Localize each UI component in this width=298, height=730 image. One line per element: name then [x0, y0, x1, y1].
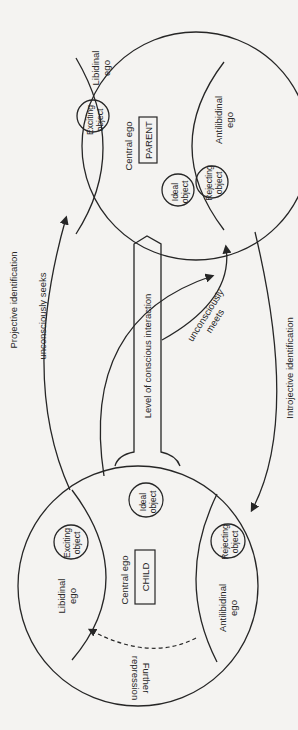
- child-libidinal-divider: [72, 490, 106, 660]
- parent-label: PARENT: [143, 121, 154, 159]
- parent-central-ego-label: Central ego: [123, 121, 134, 170]
- child-antilibidinal-ego-label: Antilibidinalego: [217, 584, 239, 632]
- child-exciting-object-label: Excitingobject: [62, 528, 82, 558]
- child-rejecting-object-label: Rejectingobject: [220, 524, 240, 560]
- parent-outer-circle: [82, 32, 298, 260]
- parent-libidinal-ego-label: Libidinalego: [90, 51, 112, 86]
- child-antilibidinal-divider: [196, 494, 217, 662]
- connector-label: Level of conscious interaction: [142, 294, 153, 419]
- child-central-ego-label: Central ego: [119, 555, 130, 604]
- introjective-identification-label: Introjective identification: [284, 317, 295, 418]
- further-repression-arrow: [90, 630, 196, 648]
- introjective-identification-arrow: [252, 232, 277, 510]
- unconsciously-seeks-label: unconsciously seeks: [37, 272, 48, 359]
- parent-exciting-object-label: Excitingobject: [85, 105, 105, 135]
- child-libidinal-ego-label: Libidinalego: [56, 579, 78, 614]
- child-ideal-object-label: Idealobject: [138, 490, 158, 513]
- object-relations-diagram: Excitingobject Libidinalego Central ego …: [0, 0, 298, 730]
- child-label: CHILD: [140, 563, 151, 592]
- further-repression-label: Furtherrepression: [130, 656, 152, 700]
- parent-antilibidinal-ego-label: Antilibidinalego: [213, 96, 235, 144]
- unconsciously-meets-label: unconsciouslymeets: [185, 287, 235, 349]
- stem-top-arrow: [134, 236, 161, 259]
- parent-ideal-object-label: Idealobject: [170, 180, 190, 203]
- parent-antilibidinal-divider: [192, 62, 224, 230]
- stem-right-edge: [161, 259, 180, 466]
- stem-left-edge: [115, 259, 134, 466]
- unconsciously-seeks-arrow: [100, 276, 212, 476]
- projective-identification-label: Projective identification: [8, 251, 19, 348]
